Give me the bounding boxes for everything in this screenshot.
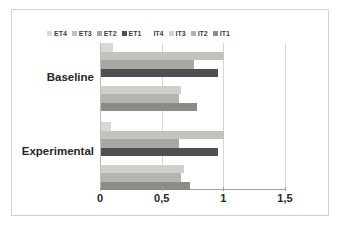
legend-swatch-icon — [213, 31, 218, 36]
bar-et1-baseline[interactable] — [101, 69, 218, 78]
bar-it3-baseline[interactable] — [101, 86, 181, 95]
bar-row — [101, 86, 285, 95]
legend-swatch-icon — [47, 31, 52, 36]
gridline — [285, 43, 286, 190]
bar-et4-baseline[interactable] — [101, 43, 113, 52]
bar-et2-baseline[interactable] — [101, 60, 194, 69]
legend-item-it3[interactable]: IT3 — [169, 30, 186, 38]
legend-item-it2[interactable]: IT2 — [191, 30, 208, 38]
legend-label: ET2 — [104, 30, 117, 38]
legend-item-it4[interactable]: IT4 — [146, 30, 163, 38]
legend-item-et3[interactable]: ET3 — [72, 30, 92, 38]
bar-row — [101, 52, 285, 61]
bar-it1-experimental[interactable] — [101, 182, 190, 191]
plot-area — [100, 43, 285, 190]
bar-row — [101, 139, 285, 148]
bar-row — [101, 156, 285, 165]
bar-it1-baseline[interactable] — [101, 103, 197, 112]
bar-et3-baseline[interactable] — [101, 52, 224, 61]
legend-swatch-icon — [97, 31, 102, 36]
legend-swatch-icon — [122, 31, 127, 36]
x-tick-label: 1 — [220, 191, 226, 205]
bar-row — [101, 94, 285, 103]
bar-et1-experimental[interactable] — [101, 148, 218, 157]
bar-it2-experimental[interactable] — [101, 173, 181, 182]
bar-row — [101, 148, 285, 157]
x-axis-tick-labels: 00,511,5 — [100, 191, 285, 211]
legend-label: IT1 — [220, 30, 230, 38]
legend-item-et2[interactable]: ET2 — [97, 30, 117, 38]
legend-swatch-icon — [146, 31, 151, 36]
legend-label: ET3 — [79, 30, 92, 38]
chart-container: ET4ET3ET2ET1IT4IT3IT2IT1 00,511,5 Baseli… — [0, 0, 343, 232]
bar-row — [101, 77, 285, 86]
x-tick-label: 1,5 — [277, 191, 292, 205]
bar-row — [101, 173, 285, 182]
bar-row — [101, 60, 285, 69]
x-tick-label: 0,5 — [154, 191, 169, 205]
legend-item-et4[interactable]: ET4 — [47, 30, 67, 38]
bar-it3-experimental[interactable] — [101, 165, 184, 174]
bar-row — [101, 69, 285, 78]
category-label-experimental: Experimental — [8, 144, 94, 158]
bar-it2-baseline[interactable] — [101, 94, 179, 103]
bar-row — [101, 103, 285, 112]
bar-group-baseline — [101, 43, 285, 111]
x-tick-mark — [162, 187, 163, 191]
legend-label: IT4 — [153, 30, 163, 38]
legend-label: ET4 — [54, 30, 67, 38]
x-tick-mark — [285, 187, 286, 191]
legend-label: IT2 — [198, 30, 208, 38]
category-label-baseline: Baseline — [20, 70, 94, 84]
bar-row — [101, 122, 285, 131]
legend-swatch-icon — [169, 31, 174, 36]
bar-et4-experimental[interactable] — [101, 122, 111, 131]
legend-item-it1[interactable]: IT1 — [213, 30, 230, 38]
legend-swatch-icon — [72, 31, 77, 36]
legend-item-et1[interactable]: ET1 — [122, 30, 142, 38]
bar-et3-experimental[interactable] — [101, 131, 224, 140]
bar-row — [101, 43, 285, 52]
bar-group-experimental — [101, 122, 285, 190]
legend-label: ET1 — [129, 30, 142, 38]
x-tick-mark — [100, 187, 101, 191]
bar-row — [101, 165, 285, 174]
x-tick-label: 0 — [97, 191, 103, 205]
bar-row — [101, 131, 285, 140]
legend-label: IT3 — [176, 30, 186, 38]
legend-swatch-icon — [191, 31, 196, 36]
bar-et2-experimental[interactable] — [101, 139, 179, 148]
x-tick-mark — [223, 187, 224, 191]
chart-legend: ET4ET3ET2ET1IT4IT3IT2IT1 — [47, 27, 287, 40]
bar-row — [101, 182, 285, 191]
